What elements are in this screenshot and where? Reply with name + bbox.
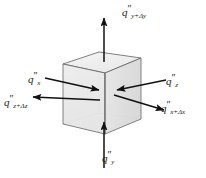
flux-label-y-plus-dy: q″y+Δy xyxy=(122,4,146,20)
flux-label-y: q″y xyxy=(102,150,114,166)
flux-label-z: q″z xyxy=(166,73,178,89)
flux-subscript: y+Δy xyxy=(131,12,146,20)
flux-subscript: z+Δz xyxy=(13,102,27,110)
flux-label-x: q″x xyxy=(28,71,40,87)
heat-flux-control-volume-figure: q″y+Δy q″x q″z+Δz q″z q″x+Δx q″y xyxy=(0,0,206,178)
flux-label-x-plus-dx: q″x+Δx xyxy=(161,100,185,116)
flux-subscript: z xyxy=(175,81,178,89)
flux-subscript: x xyxy=(37,79,40,87)
flux-subscript: y xyxy=(111,158,114,166)
flux-label-z-plus-dz: q″z+Δz xyxy=(4,94,27,110)
flux-subscript: x+Δx xyxy=(170,108,185,116)
